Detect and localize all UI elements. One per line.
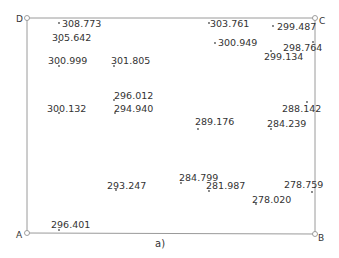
survey-point-label: 284.239 (267, 118, 306, 129)
survey-point-label: 303.761 (210, 18, 249, 29)
survey-point-label: 300.132 (47, 103, 86, 114)
points-layer: 308.773305.642300.999301.805303.761300.9… (47, 18, 323, 231)
edge-ba (27, 233, 315, 234)
survey-point-label: 296.012 (114, 90, 153, 101)
corner-a-label: A (16, 230, 23, 240)
survey-point-label: 289.176 (195, 116, 234, 127)
survey-point-marker (214, 42, 216, 44)
survey-point-label: 278.020 (252, 194, 291, 205)
survey-point-label: 300.999 (48, 55, 87, 66)
survey-point-marker (311, 191, 313, 193)
survey-point-label: 301.805 (111, 55, 150, 66)
survey-point-label: 299.134 (264, 51, 303, 62)
corner-d-marker (25, 16, 30, 21)
survey-point-marker (272, 25, 274, 27)
survey-point-label: 288.142 (282, 103, 321, 114)
survey-point-marker (197, 128, 199, 130)
survey-point-label: 278.759 (284, 179, 323, 190)
survey-point-label: 294.940 (114, 103, 153, 114)
corner-b-marker (313, 232, 318, 237)
corner-c-label: C (319, 16, 325, 26)
survey-point-label: 281.987 (206, 180, 245, 191)
survey-point-label: 299.487 (277, 21, 316, 32)
survey-point-label: 308.773 (62, 18, 101, 29)
figure-caption: a) (155, 238, 165, 249)
corner-b-label: B (318, 233, 324, 243)
survey-point-marker (58, 22, 60, 24)
survey-point-label: 300.949 (218, 37, 257, 48)
corner-d-label: D (16, 14, 23, 24)
survey-diagram: D C A B a) 308.773305.642300.999301.8053… (0, 0, 339, 258)
survey-point-label: 305.642 (52, 32, 91, 43)
corner-a-marker (25, 231, 30, 236)
survey-point-label: 296.401 (51, 219, 90, 230)
corner-c-marker (313, 16, 318, 21)
survey-point-label: 293.247 (107, 180, 146, 191)
